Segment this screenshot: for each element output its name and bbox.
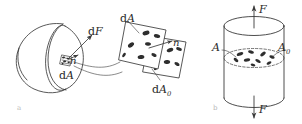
label-area-A: A bbox=[212, 42, 220, 53]
label-dA-detail: dA bbox=[120, 13, 135, 24]
figure-drawing bbox=[0, 0, 302, 124]
label-dF: dF bbox=[88, 26, 103, 37]
label-force-bottom: F bbox=[259, 104, 267, 115]
leader-line-upper bbox=[74, 62, 120, 67]
enlarged-element-group bbox=[119, 21, 186, 80]
label-normal-body: n bbox=[70, 56, 76, 66]
panel-label-a: a bbox=[17, 105, 21, 112]
cross-section-fibers bbox=[233, 50, 275, 67]
label-normal-detail: n bbox=[173, 38, 179, 48]
figure-container: dF n dA dA n dA0 F F A A0 a b bbox=[0, 0, 302, 124]
label-area-A0: A0 bbox=[278, 42, 290, 56]
dA-square bbox=[119, 22, 166, 69]
cylinder-group bbox=[222, 6, 286, 118]
body-outline bbox=[16, 23, 66, 92]
label-force-top: F bbox=[259, 4, 267, 15]
label-dA0-detail: dA0 bbox=[152, 84, 171, 98]
label-dA-body: dA bbox=[59, 70, 74, 81]
panel-label-b: b bbox=[213, 105, 217, 112]
